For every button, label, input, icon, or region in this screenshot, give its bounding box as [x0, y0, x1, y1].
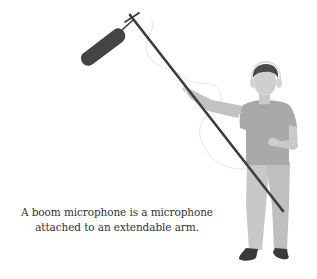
caption-line-2: attached to an extendable arm.: [8, 220, 226, 235]
boom-microphone-illustration: [0, 0, 317, 279]
caption: A boom microphone is a microphone attach…: [8, 205, 226, 235]
caption-line-1: A boom microphone is a microphone: [8, 205, 226, 220]
left-arm-icon: [182, 86, 243, 118]
pants-icon: [246, 162, 290, 250]
shoes-icon: [239, 248, 289, 261]
shirt-icon: [240, 100, 297, 165]
microphone-icon: [81, 28, 125, 65]
head-icon: [253, 64, 278, 96]
